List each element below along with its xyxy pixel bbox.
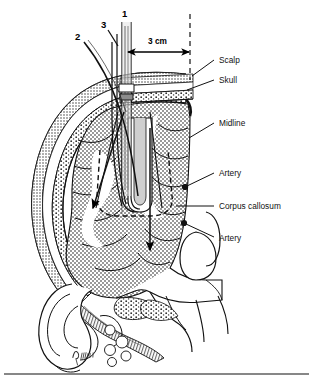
marker-3-label: 3 [101, 19, 106, 30]
label-artery-lower: Artery [219, 233, 242, 243]
label-artery-upper: Artery [219, 168, 242, 178]
label-midline: Midline [219, 118, 246, 128]
marker-2-label: 2 [75, 31, 80, 42]
figure-svg: 3 cm 1 2 3 Scalp Skull Midline Artery Co… [0, 0, 313, 389]
cranial-cross-section-figure: 3 cm 1 2 3 Scalp Skull Midline Artery Co… [0, 0, 313, 389]
dimension-label: 3 cm [148, 36, 167, 46]
marker-1-label: 1 [122, 8, 128, 19]
label-corpus-callosum: Corpus callosum [219, 201, 281, 211]
label-skull: Skull [219, 75, 237, 85]
label-scalp: Scalp [219, 55, 240, 65]
